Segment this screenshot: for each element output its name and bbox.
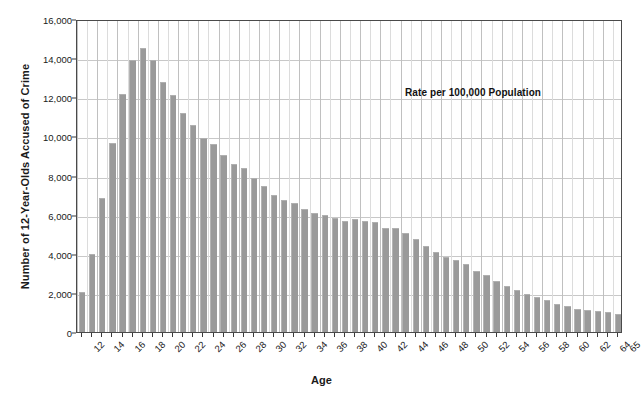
x-tick-label: 24 <box>212 339 227 354</box>
bar <box>595 311 601 332</box>
x-tick-mark <box>384 333 385 337</box>
bar <box>281 200 287 332</box>
x-axis-title: Age <box>0 374 643 386</box>
x-tick-mark <box>364 333 365 337</box>
y-axis-title: Number of 12-Year-Olds Accused of Crime <box>16 20 34 333</box>
x-axis-tick-labels: 1214161820222426283032343638404244464850… <box>76 333 622 373</box>
x-tick-mark <box>142 333 143 337</box>
x-tick-mark <box>283 333 284 337</box>
y-tick-label: 12,000 <box>34 93 72 104</box>
x-tick-mark <box>233 333 234 337</box>
x-tick-label: 30 <box>273 339 288 354</box>
y-tick-mark <box>72 20 76 21</box>
bar <box>109 143 115 332</box>
bar <box>210 144 216 332</box>
x-tick-mark <box>344 333 345 337</box>
x-tick-mark <box>91 333 92 337</box>
y-tick-label: 16,000 <box>34 15 72 26</box>
bar <box>473 271 479 332</box>
x-tick-label: 42 <box>394 339 409 354</box>
bar <box>483 275 489 332</box>
bar <box>554 304 560 332</box>
bar <box>190 125 196 332</box>
x-tick-label: 14 <box>111 339 126 354</box>
bar <box>433 252 439 332</box>
bar <box>453 260 459 332</box>
x-tick-mark <box>475 333 476 337</box>
y-tick-label: 10,000 <box>34 132 72 143</box>
y-tick-mark <box>72 333 76 334</box>
bar <box>605 312 611 332</box>
bar <box>342 221 348 332</box>
bar-series <box>77 21 621 332</box>
x-tick-label: 38 <box>354 339 369 354</box>
x-tick-label: 65 <box>627 339 642 354</box>
bar <box>170 95 176 332</box>
x-tick-mark <box>395 333 396 337</box>
x-tick-mark <box>334 333 335 337</box>
x-tick-mark <box>526 333 527 337</box>
x-tick-mark <box>425 333 426 337</box>
y-tick-mark <box>72 137 76 138</box>
x-tick-label: 20 <box>172 339 187 354</box>
bar <box>301 209 307 332</box>
x-tick-mark <box>546 333 547 337</box>
bar <box>362 221 368 333</box>
y-tick-mark <box>72 98 76 99</box>
bar <box>291 203 297 332</box>
x-tick-mark <box>465 333 466 337</box>
x-tick-label: 50 <box>475 339 490 354</box>
bar <box>392 228 398 332</box>
x-tick-mark <box>597 333 598 337</box>
x-tick-mark <box>314 333 315 337</box>
bar <box>352 219 358 332</box>
x-tick-mark <box>293 333 294 337</box>
bar <box>615 314 621 332</box>
x-tick-mark <box>324 333 325 337</box>
bar <box>402 233 408 332</box>
bar-chart: Number of 12-Year-Olds Accused of Crime … <box>0 0 643 399</box>
x-tick-mark <box>213 333 214 337</box>
x-tick-label: 12 <box>91 339 106 354</box>
x-tick-label: 32 <box>293 339 308 354</box>
x-tick-mark <box>566 333 567 337</box>
bar <box>271 195 277 332</box>
y-tick-label: 14,000 <box>34 54 72 65</box>
bar <box>372 222 378 332</box>
x-tick-mark <box>162 333 163 337</box>
bar <box>544 300 550 332</box>
x-tick-mark <box>122 333 123 337</box>
x-tick-mark <box>607 333 608 337</box>
x-tick-mark <box>263 333 264 337</box>
x-tick-label: 28 <box>253 339 268 354</box>
x-tick-mark <box>516 333 517 337</box>
x-tick-mark <box>253 333 254 337</box>
x-tick-label: 52 <box>496 339 511 354</box>
x-tick-mark <box>202 333 203 337</box>
bar <box>443 257 449 332</box>
bar <box>311 213 317 332</box>
x-tick-label: 26 <box>233 339 248 354</box>
x-tick-mark <box>81 333 82 337</box>
bar <box>150 60 156 332</box>
x-tick-mark <box>223 333 224 337</box>
x-tick-mark <box>172 333 173 337</box>
x-tick-mark <box>374 333 375 337</box>
x-tick-mark <box>152 333 153 337</box>
y-tick-label: 8,000 <box>34 171 72 182</box>
bar <box>79 292 85 332</box>
x-tick-mark <box>354 333 355 337</box>
bar <box>332 218 338 332</box>
bar <box>463 264 469 332</box>
x-tick-mark <box>111 333 112 337</box>
x-tick-mark <box>455 333 456 337</box>
x-tick-label: 56 <box>536 339 551 354</box>
bar <box>119 94 125 332</box>
x-tick-label: 48 <box>455 339 470 354</box>
x-tick-label: 22 <box>192 339 207 354</box>
y-tick-mark <box>72 215 76 216</box>
x-tick-mark <box>101 333 102 337</box>
bar <box>504 286 510 332</box>
y-tick-mark <box>72 59 76 60</box>
y-tick-mark <box>72 176 76 177</box>
